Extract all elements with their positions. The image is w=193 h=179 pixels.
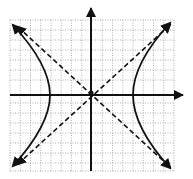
center-point [89, 91, 94, 96]
hyperbola-graph [0, 0, 193, 179]
